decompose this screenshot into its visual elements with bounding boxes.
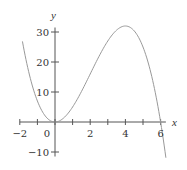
x-tick-label: 6 <box>157 128 163 139</box>
function-plot: −20246−10102030 x y <box>0 0 187 170</box>
y-axis-label: y <box>50 9 56 21</box>
x-tick-label: 4 <box>122 128 128 139</box>
x-tick-label: −2 <box>12 128 27 139</box>
y-tick-label: 10 <box>36 87 49 98</box>
y-tick-label: 30 <box>36 27 49 38</box>
x-tick-label: 2 <box>87 128 93 139</box>
x-axis-label: x <box>171 116 177 128</box>
y-tick-label: −10 <box>28 147 49 158</box>
tick-labels: −20246−10102030 <box>12 27 163 158</box>
x-tick-label: 0 <box>44 128 50 139</box>
y-tick-label: 20 <box>36 57 49 68</box>
